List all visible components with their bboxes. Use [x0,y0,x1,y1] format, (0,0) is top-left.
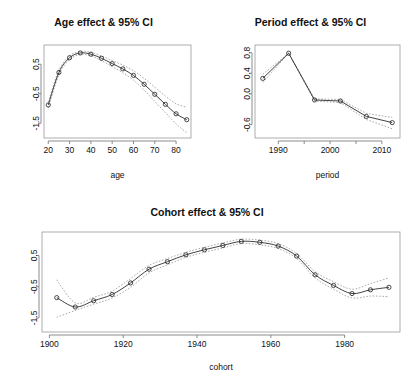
cohort-effect-chart: Cohort effect & 95% CI-1.5-0.50.51900192… [0,194,414,388]
y-axis-tick-label: -0.5 [31,86,41,101]
ci-upper-band [263,53,392,117]
y-axis-tick-label: 0.8 [242,47,252,59]
x-axis-tick-label: 2010 [372,145,391,155]
plot-frame [44,45,191,138]
y-axis-tick-label: -1.5 [29,310,39,325]
period-effect-plot: Period effect & 95% CI-0.60.00.40.819902… [207,0,414,194]
x-axis-tick-label: 30 [65,145,75,155]
effect-curve [263,53,392,122]
chart-title: Cohort effect & 95% CI [150,206,263,218]
x-axis-tick-label: 50 [107,145,117,155]
ci-lower-band [263,53,392,129]
period-effect-chart: Period effect & 95% CI-0.60.00.40.819902… [207,0,414,194]
x-axis-tick-label: 1900 [40,339,59,349]
x-axis-tick-label: 20 [44,145,54,155]
effect-curve [57,241,389,307]
ci-lower-band [57,243,389,317]
age-effect-chart: Age effect & 95% CI-1.5-0.50.52030405060… [0,0,207,194]
x-axis-tick-label: 1920 [114,339,133,349]
age-effect-plot: Age effect & 95% CI-1.5-0.50.52030405060… [0,0,207,194]
y-axis-tick-label: 0.5 [31,58,41,70]
x-axis-tick-label: 80 [171,145,181,155]
x-axis-label: period [316,170,340,180]
x-axis-tick-label: 1940 [188,339,207,349]
y-axis-tick-label: -0.6 [242,117,252,132]
x-axis-tick-label: 1980 [335,339,354,349]
y-axis-tick-label: 0.0 [242,88,252,100]
x-axis-label: age [110,170,124,180]
chart-title: Age effect & 95% CI [54,16,153,28]
cohort-effect-plot: Cohort effect & 95% CI-1.5-0.50.51900192… [0,194,414,388]
y-axis-tick-label: 0.5 [29,249,39,261]
plot-frame [255,45,400,138]
x-axis-tick-label: 70 [150,145,160,155]
x-axis-tick-label: 60 [129,145,139,155]
y-axis-tick-label: 0.4 [242,67,252,79]
x-axis-tick-label: 1960 [261,339,280,349]
y-axis-tick-label: -1.5 [31,116,41,131]
x-axis-tick-label: 40 [86,145,96,155]
x-axis-tick-label: 2000 [321,145,340,155]
ci-upper-band [57,239,389,304]
x-axis-label: cohort [209,362,233,372]
y-axis-tick-label: -0.5 [29,279,39,294]
chart-title: Period effect & 95% CI [255,16,367,28]
x-axis-tick-label: 1990 [269,145,288,155]
